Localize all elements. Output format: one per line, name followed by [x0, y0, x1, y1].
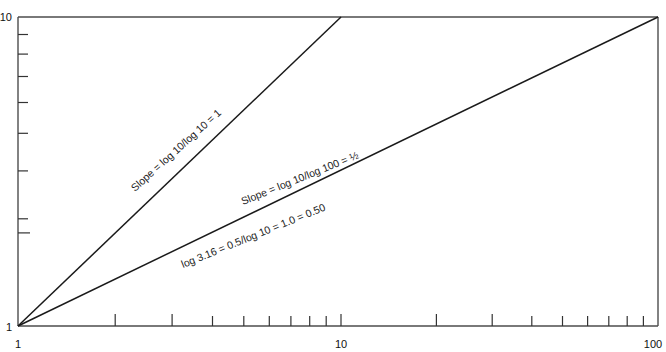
slope-1-line [18, 17, 341, 326]
x-axis-mid-label: 10 [335, 338, 347, 350]
y-axis-ticks [18, 35, 30, 233]
y-axis-bottom-label: 1 [6, 321, 12, 333]
log-log-plot-figure: 10 1 1 10 100 Slope = log 10/log 10 = 1 … [0, 0, 666, 352]
x-axis-right-label: 100 [644, 338, 662, 350]
x-axis-ticks [115, 314, 643, 326]
slope-1-annotation: Slope = log 10/log 10 = 1 [128, 106, 223, 193]
slope-half-line [18, 17, 658, 326]
y-axis-top-label: 10 [0, 11, 12, 23]
chart-svg: 10 1 1 10 100 Slope = log 10/log 10 = 1 … [0, 0, 666, 352]
slope-half-computation-annotation: log 3.16 = 0.5/log 10 = 1.0 = 0.50 [179, 201, 327, 270]
x-axis-left-label: 1 [15, 338, 21, 350]
data-series [18, 17, 658, 326]
slope-half-annotation: Slope = log 10/log 100 = ½ [239, 149, 360, 207]
